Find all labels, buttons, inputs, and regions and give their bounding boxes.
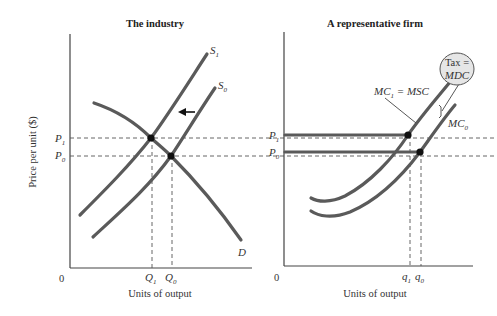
firm-equilibrium-dot-0 bbox=[416, 148, 423, 155]
equilibrium-dot-1 bbox=[147, 134, 154, 141]
tax-bracket bbox=[439, 105, 441, 118]
demand-curve bbox=[94, 103, 241, 240]
mc1-msc-label: MC1 = MSC bbox=[373, 85, 430, 100]
q1-firm-label: q1 bbox=[402, 270, 411, 285]
industry-panel: The industry S1 S0 D P1 P0 Q1 Q0 0 bbox=[27, 18, 497, 299]
left-arrow-icon bbox=[178, 108, 195, 116]
industry-x-axis-label: Units of output bbox=[128, 288, 192, 299]
firm-x-axis-label: Units of output bbox=[343, 288, 407, 299]
industry-title: The industry bbox=[126, 18, 185, 29]
p0-label-right: P0 bbox=[268, 146, 280, 161]
p1-label-left: P1 bbox=[54, 132, 65, 147]
mc1-leader-line bbox=[385, 98, 416, 123]
diagram-canvas: The industry S1 S0 D P1 P0 Q1 Q0 0 bbox=[0, 0, 497, 316]
q1-label: Q1 bbox=[145, 271, 156, 286]
p1-label-right: P1 bbox=[268, 129, 279, 144]
price-axis-label: Price per unit ($) bbox=[27, 116, 39, 188]
mc0-label: MC0 bbox=[447, 117, 469, 132]
q0-label: Q0 bbox=[165, 271, 177, 286]
firm-panel: A representative firm MC1 = MSC Tax = MD… bbox=[268, 18, 474, 299]
tax-bubble-line2: MDC bbox=[444, 69, 470, 81]
s0-label: S0 bbox=[218, 79, 228, 94]
firm-equilibrium-dot-1 bbox=[404, 131, 411, 138]
tax-bubble-line1: Tax = bbox=[445, 57, 469, 68]
firm-title: A representative firm bbox=[327, 18, 423, 29]
s1-label: S1 bbox=[210, 44, 219, 59]
p0-label-left: P0 bbox=[54, 149, 66, 164]
q0-firm-label: q0 bbox=[415, 270, 425, 285]
equilibrium-dot-0 bbox=[167, 152, 174, 159]
industry-origin-label: 0 bbox=[59, 273, 64, 284]
firm-origin-label: 0 bbox=[274, 272, 279, 283]
d-label: D bbox=[237, 246, 246, 258]
